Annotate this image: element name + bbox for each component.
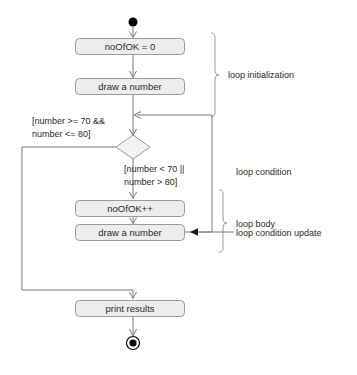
action-node-print-results[interactable]: print results: [76, 301, 185, 317]
action-label-print-results: print results: [105, 303, 154, 314]
action-label-draw-first: draw a number: [98, 81, 161, 92]
edge-init-to-draw-first: [130, 55, 137, 78]
action-node-init-counter[interactable]: noOfOK = 0: [76, 39, 185, 55]
action-label-init-counter: noOfOK = 0: [105, 41, 155, 52]
annotation-loop-condition: loop condition: [236, 167, 292, 177]
annotation-loop-initialization: loop initialization: [228, 70, 294, 80]
edge-print-to-end: [130, 317, 137, 336]
final-node: [127, 337, 140, 350]
action-label-draw-again: draw a number: [98, 227, 161, 238]
edge-decision-exit-to-print: [22, 147, 137, 299]
guard-label-exit: [number >= 70 && number <= 80]: [32, 116, 105, 139]
guard-exit-line-2: number <= 80]: [32, 129, 91, 139]
guard-loop-line-2: number > 80]: [124, 177, 177, 187]
brace-loop-initialization: [211, 33, 219, 117]
brace-loop-body: [219, 190, 227, 252]
activity-diagram: noOfOK = 0 draw a number noOfOK++ draw a…: [0, 0, 357, 375]
edge-loop-update-marker: [190, 228, 198, 236]
guard-loop-line-1: [number < 70 ||: [124, 164, 184, 174]
activity-diagram-canvas: noOfOK = 0 draw a number noOfOK++ draw a…: [0, 0, 357, 375]
action-label-increment: noOfOK++: [107, 203, 153, 214]
edge-start-to-init: [130, 27, 137, 38]
action-node-draw-again[interactable]: draw a number: [76, 225, 185, 241]
action-node-draw-first[interactable]: draw a number: [76, 79, 185, 95]
decision-node[interactable]: [116, 135, 150, 159]
action-node-increment[interactable]: noOfOK++: [76, 201, 185, 217]
edge-increment-to-draw-again: [130, 217, 137, 224]
initial-node: [129, 18, 138, 27]
annotation-loop-condition-update: loop condition update: [236, 228, 322, 238]
guard-exit-line-1: [number >= 70 &&: [32, 116, 105, 126]
